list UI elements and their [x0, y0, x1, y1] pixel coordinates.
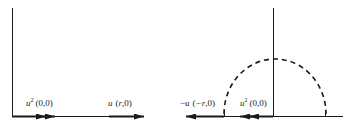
u-label: u(r,0)	[108, 98, 132, 108]
u-squared-label: u2(0,0)	[26, 97, 53, 108]
left-panel: u2(0,0) u(r,0)	[12, 8, 144, 117]
right-panel: u2(0,0) −u(−r,0)	[180, 8, 343, 117]
u-squared-label-right: u2(0,0)	[240, 97, 267, 108]
neg-u-label: −u(−r,0)	[180, 98, 215, 108]
vector-diagram: u2(0,0) u(r,0) u2(0,0) −u(−r,0)	[0, 0, 352, 127]
